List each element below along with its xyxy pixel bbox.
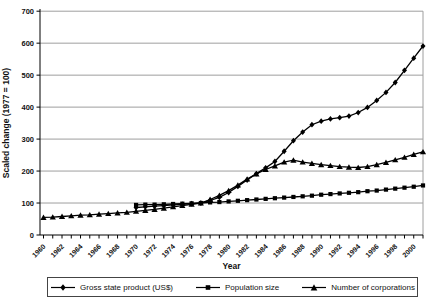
y-tick-label: 600 [21,39,34,48]
x-tick-label: 1974 [160,243,176,259]
legend: Gross state product (US$) Population siz… [47,277,418,297]
x-tick-label: 1998 [382,243,398,259]
x-tick-label: 1988 [290,243,306,259]
x-tick-label: 1976 [179,243,195,259]
legend-label-gross-state-product: Gross state product (US$) [80,283,173,292]
y-tick-label: 300 [21,135,34,144]
figure: 0100200300400500600700196019621964196619… [0,0,434,300]
y-tick-label: 700 [21,7,34,16]
diamond-marker-icon [50,283,76,292]
x-tick-label: 1972 [142,243,158,259]
legend-label-number-of-corporations: Number of corporations [331,283,415,292]
square-marker-icon [195,283,221,292]
series-number-of-corporations [40,149,426,220]
series-gross-state-product-us [134,43,426,210]
legend-item-number-of-corporations: Number of corporations [301,283,415,292]
x-axis-title: Year [223,261,242,271]
legend-item-gross-state-product: Gross state product (US$) [50,283,173,292]
x-tick-label: 1962 [49,243,65,259]
x-tick-label: 1982 [234,243,250,259]
legend-item-population-size: Population size [195,283,279,292]
x-tick-label: 1968 [105,243,121,259]
y-tick-label: 500 [21,71,34,80]
line-chart: 0100200300400500600700196019621964196619… [0,0,434,276]
legend-label-population-size: Population size [225,283,279,292]
y-tick-label: 100 [21,199,34,208]
x-tick-label: 1964 [68,243,84,259]
triangle-marker-icon [301,283,327,292]
y-tick-label: 400 [21,103,34,112]
x-tick-label: 2000 [401,243,417,259]
x-tick-label: 1992 [327,243,343,259]
x-tick-label: 1990 [308,243,324,259]
y-tick-label: 0 [30,231,34,240]
x-tick-label: 1978 [197,243,213,259]
x-tick-label: 1986 [271,243,287,259]
x-tick-label: 1966 [86,243,102,259]
y-tick-labels: 0100200300400500600700 [21,7,34,240]
y-tick-label: 200 [21,167,34,176]
x-tick-label: 1980 [216,243,232,259]
x-tick-labels: 1960196219641966196819701972197419761978… [31,243,417,259]
x-tick-label: 1994 [345,243,361,259]
x-tick-label: 1984 [253,243,269,259]
y-axis-title: Scaled change (1977 = 100) [1,68,11,178]
x-tick-label: 1996 [364,243,380,259]
x-tick-label: 1970 [123,243,139,259]
x-tick-label: 1960 [31,243,47,259]
